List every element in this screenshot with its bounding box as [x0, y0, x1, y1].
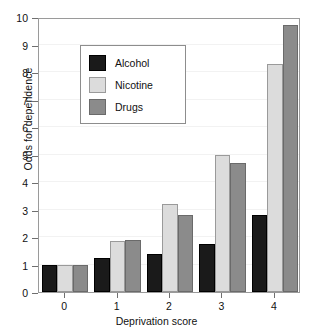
x-axis-tick-label: 4: [254, 300, 294, 312]
y-axis-tick-label: 5: [0, 150, 28, 162]
x-axis-title: Deprivation score: [0, 315, 313, 327]
legend-item-drugs: Drugs: [89, 97, 177, 116]
bar-drugs-1: [125, 240, 141, 292]
x-axis-tick-label: 2: [149, 300, 189, 312]
legend-swatch-drugs: [89, 99, 106, 115]
bar-nicotine-1: [110, 241, 126, 292]
x-axis-tick-label: 0: [44, 300, 84, 312]
bar-alcohol-2: [147, 254, 163, 293]
bar-drugs-2: [178, 215, 194, 292]
bar-nicotine-3: [215, 155, 231, 293]
bar-chart-figure: Odds for dependence 012345678910 Alcohol…: [0, 0, 313, 331]
legend-swatch-nicotine: [89, 77, 106, 93]
bar-alcohol-1: [94, 258, 110, 292]
y-axis-tick-label: 4: [0, 177, 28, 189]
legend: AlcoholNicotineDrugs: [80, 45, 186, 124]
x-axis-tick-label: 1: [97, 300, 137, 312]
gridline: [39, 154, 299, 155]
y-axis-tick-label: 8: [0, 67, 28, 79]
bar-nicotine-0: [57, 265, 73, 293]
legend-item-nicotine: Nicotine: [89, 75, 177, 94]
bar-alcohol-0: [42, 265, 58, 293]
bar-alcohol-3: [199, 244, 215, 292]
bar-nicotine-2: [162, 204, 178, 292]
legend-label: Alcohol: [115, 57, 149, 69]
gridline: [39, 181, 299, 182]
y-axis-tick-label: 6: [0, 122, 28, 134]
bar-drugs-3: [230, 163, 246, 292]
y-axis-tick-label: 3: [0, 205, 28, 217]
y-axis-tick-label: 0: [0, 287, 28, 299]
y-axis-tick-label: 9: [0, 40, 28, 52]
plot-area: AlcoholNicotineDrugs: [38, 18, 300, 293]
y-axis-tick: [32, 293, 38, 294]
bar-drugs-4: [283, 25, 299, 292]
x-axis-tick: [274, 293, 275, 298]
legend-item-alcohol: Alcohol: [89, 53, 177, 72]
x-axis-tick-label: 3: [201, 300, 241, 312]
y-axis-tick-label: 10: [0, 12, 28, 24]
bar-alcohol-4: [252, 215, 268, 292]
x-axis-tick: [64, 293, 65, 298]
legend-swatch-alcohol: [89, 55, 106, 71]
gridline: [39, 126, 299, 127]
bar-drugs-0: [73, 265, 89, 293]
x-axis-tick: [221, 293, 222, 298]
y-axis-tick-label: 1: [0, 260, 28, 272]
legend-label: Drugs: [115, 101, 143, 113]
y-axis-tick-label: 2: [0, 232, 28, 244]
legend-label: Nicotine: [115, 79, 153, 91]
y-axis-tick-label: 7: [0, 95, 28, 107]
x-axis-tick: [169, 293, 170, 298]
bar-nicotine-4: [267, 64, 283, 292]
x-axis-tick: [117, 293, 118, 298]
